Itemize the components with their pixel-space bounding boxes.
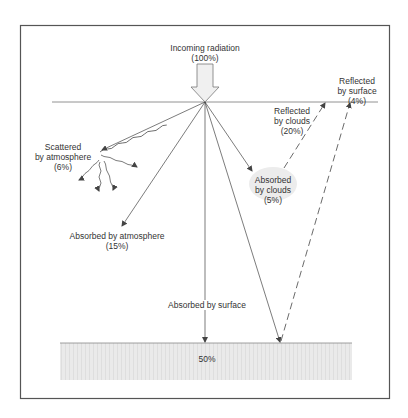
label-absorbed-clouds: Absorbed by clouds (5%)	[255, 175, 291, 205]
ground-value: 50%	[198, 354, 215, 364]
label-reflected-clouds: Reflected by clouds (20%)	[274, 106, 310, 136]
label-reflected-surface: Reflected by surface (4%)	[337, 76, 376, 106]
label-absorbed-surface: Absorbed by surface	[166, 300, 248, 310]
label-incoming: Incoming radiation (100%)	[170, 43, 239, 63]
label-absorbed-atmosphere: Absorbed by atmosphere (15%)	[70, 231, 165, 251]
label-scattered: Scattered by atmosphere (6%)	[35, 142, 91, 172]
